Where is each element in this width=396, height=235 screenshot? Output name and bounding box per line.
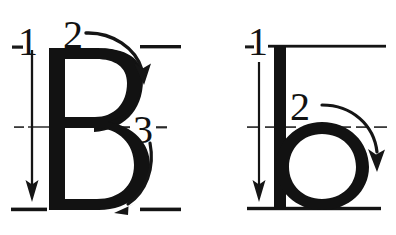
stroke-order-diagram: 1 2 3 bbox=[0, 0, 396, 235]
stroke-label-1-uppercase: 1 bbox=[18, 19, 38, 64]
stroke-1-arrow-lowercase bbox=[253, 62, 266, 202]
stroke-label-2-uppercase: 2 bbox=[63, 12, 83, 57]
diagram-svg: 1 2 3 bbox=[0, 0, 396, 235]
stroke-1-arrow-uppercase bbox=[26, 50, 39, 202]
stroke-label-2-lowercase: 2 bbox=[290, 84, 310, 129]
stroke-label-3-uppercase: 3 bbox=[133, 107, 153, 152]
stroke-label-1-lowercase: 1 bbox=[248, 19, 268, 64]
